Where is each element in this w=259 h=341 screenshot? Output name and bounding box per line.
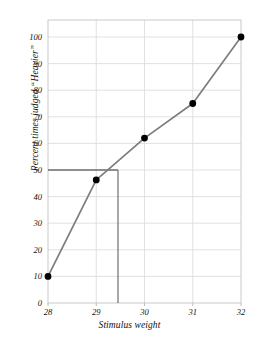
y-axis-title: Percent times judged “Heavier” bbox=[24, 18, 40, 198]
x-tick-label-32: 32 bbox=[236, 307, 246, 317]
x-axis-tick-labels: 28 29 30 31 32 bbox=[44, 307, 246, 317]
data-point-29 bbox=[93, 177, 100, 184]
y-tick-label-20: 20 bbox=[34, 245, 43, 255]
x-tick-label-31: 31 bbox=[188, 307, 198, 317]
data-point-32 bbox=[238, 34, 245, 41]
data-point-30 bbox=[141, 135, 148, 142]
y-tick-label-10: 10 bbox=[34, 271, 43, 281]
y-tick-label-0: 0 bbox=[38, 298, 43, 308]
x-tick-label-29: 29 bbox=[92, 307, 101, 317]
y-tick-label-30: 30 bbox=[33, 218, 43, 228]
x-tick-label-30: 30 bbox=[139, 307, 149, 317]
x-axis-title: Stimulus weight bbox=[0, 320, 259, 330]
y-axis-title-text: Percent times judged “Heavier” bbox=[30, 45, 40, 171]
data-point-28 bbox=[45, 273, 52, 280]
chart-figure: 100 90 80 70 60 50 40 30 20 10 0 28 29 3… bbox=[0, 0, 259, 341]
x-tick-label-28: 28 bbox=[44, 307, 53, 317]
data-point-31 bbox=[189, 100, 196, 107]
